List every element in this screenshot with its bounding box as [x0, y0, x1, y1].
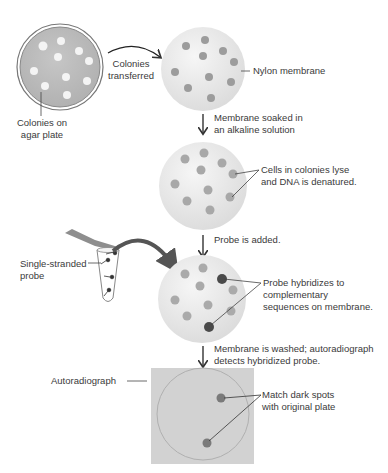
label-lyse: Cells in colonies lyse and DNA is denatu…	[261, 164, 357, 188]
label-nylon-membrane: Nylon membrane	[253, 65, 325, 77]
label-line: Cells in colonies lyse	[261, 164, 357, 176]
agar-plate	[17, 24, 103, 116]
denatured-membrane	[159, 142, 259, 230]
label-match: Match dark spots with original plate	[262, 389, 335, 413]
label-step-probe: Probe is added.	[214, 234, 281, 246]
label-line: Probe hybridizes to	[263, 277, 373, 289]
label-line: detects hybridized probe.	[214, 355, 373, 367]
label-step-wash: Membrane is washed; autoradiograph detec…	[214, 343, 373, 367]
probe-added-arrow	[113, 241, 172, 264]
label-autoradiograph: Autoradiograph	[51, 375, 116, 387]
label-line: Colonies	[104, 58, 158, 70]
label-line: and DNA is denatured.	[261, 176, 357, 188]
label-line: complementary	[263, 289, 373, 301]
label-line: with original plate	[262, 401, 335, 413]
label-line: Membrane soaked in	[214, 112, 303, 124]
tube-cap	[65, 229, 118, 250]
label-transfer: Colonies transferred	[104, 58, 158, 82]
autoradiograph	[127, 368, 261, 464]
label-line: an alkaline solution	[214, 124, 303, 136]
transfer-arrow	[108, 46, 160, 57]
label-agar-plate: Colonies on agar plate	[12, 117, 72, 141]
label-line: sequences on membrane.	[263, 301, 373, 313]
label-probe: Single-stranded probe	[20, 258, 87, 282]
hybridized-membrane	[158, 255, 261, 343]
nylon-membrane	[161, 27, 250, 111]
label-hybridize: Probe hybridizes to complementary sequen…	[263, 277, 373, 313]
label-line: Match dark spots	[262, 389, 335, 401]
label-line: Single-stranded	[20, 258, 87, 270]
label-step-soak: Membrane soaked in an alkaline solution	[214, 112, 303, 136]
label-line: Membrane is washed; autoradiograph	[214, 343, 373, 355]
label-line: transferred	[104, 70, 158, 82]
label-line: Colonies on	[12, 117, 72, 129]
label-line: agar plate	[12, 129, 72, 141]
label-line: probe	[20, 270, 87, 282]
